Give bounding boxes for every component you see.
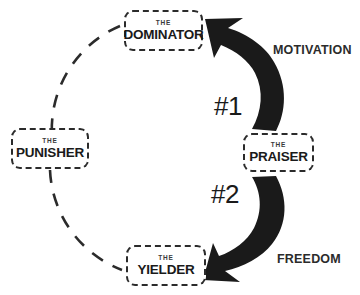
node-punisher: THE PUNISHER xyxy=(11,128,89,169)
outcome-label-motivation: MOTIVATION xyxy=(273,44,352,57)
node-dominator-label: DOMINATOR xyxy=(123,28,203,42)
node-yielder-article: THE xyxy=(158,255,173,262)
step-1-label: #1 xyxy=(214,93,242,119)
node-praiser: THE PRAISER xyxy=(243,133,314,172)
node-punisher-article: THE xyxy=(42,138,57,145)
dashed-arc-punisher-to-yielder xyxy=(50,170,122,270)
node-dominator-article: THE xyxy=(156,20,171,27)
node-punisher-label: PUNISHER xyxy=(16,146,84,160)
cycle-diagram: THE DOMINATOR THE PUNISHER THE PRAISER T… xyxy=(0,0,360,295)
node-praiser-label: PRAISER xyxy=(249,150,308,164)
node-dominator: THE DOMINATOR xyxy=(124,10,203,51)
dashed-arc-dominator-to-punisher xyxy=(52,26,120,136)
outcome-label-freedom: FREEDOM xyxy=(277,253,341,266)
step-2-label: #2 xyxy=(211,181,239,207)
node-yielder-label: YIELDER xyxy=(137,263,194,277)
node-praiser-article: THE xyxy=(271,142,286,149)
node-yielder: THE YIELDER xyxy=(126,245,206,286)
